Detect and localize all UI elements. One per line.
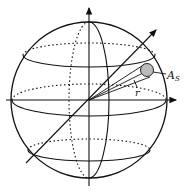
- area-label: AS: [166, 69, 180, 83]
- area-leader-line: [153, 72, 166, 74]
- radius-tick: [134, 80, 137, 87]
- radius-label: r: [135, 87, 141, 98]
- sphere-diagram: AS r: [0, 0, 186, 194]
- area-disk: [141, 64, 154, 77]
